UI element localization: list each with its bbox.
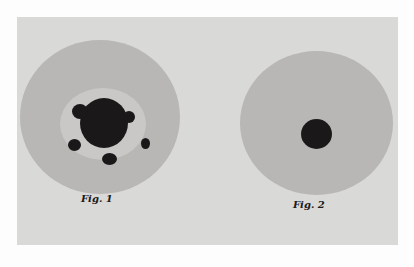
- figure-1-dish: [20, 40, 180, 194]
- central-colony: [301, 119, 332, 149]
- satellite-colony: [72, 104, 88, 119]
- central-colony: [80, 98, 128, 148]
- photo-plate: Fig. 1 Fig. 2: [17, 17, 398, 245]
- figure-2-dish: [240, 51, 393, 195]
- satellite-colony: [123, 111, 135, 123]
- satellite-colony: [102, 153, 117, 165]
- satellite-colony: [141, 138, 150, 149]
- figure-2-caption: Fig. 2: [293, 199, 325, 210]
- satellite-colony: [68, 139, 81, 151]
- figure-1-caption: Fig. 1: [81, 193, 113, 204]
